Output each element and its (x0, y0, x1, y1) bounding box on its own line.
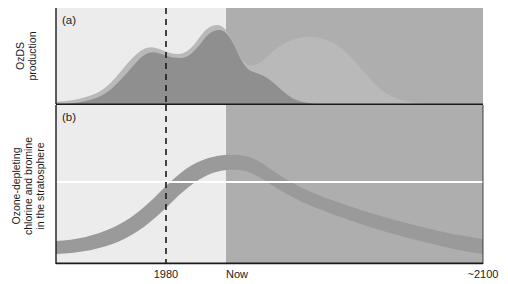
panel-a: (a) (56, 8, 483, 104)
panel-b: (b) (56, 105, 483, 264)
panel-a-ylabel-line-1: OzDS (14, 42, 26, 70)
panel-a-tag: (a) (62, 14, 76, 26)
panel-b-ylabel-line-1: Ozone-depleting (10, 147, 22, 224)
panel-b-tag: (b) (62, 111, 76, 123)
panel-b-ylabel-line-3: in the stratosphere (34, 142, 46, 229)
ozds-figure: (a) OzDS production (b) Ozon (0, 0, 508, 284)
panel-b-ylabel-line-2: chlorine and bromine (22, 137, 34, 235)
x-tick-label-1980: 1980 (154, 268, 178, 280)
x-tick-label-2100: ~2100 (468, 268, 499, 280)
x-tick-label-now: Now (226, 268, 248, 280)
panel-a-ylabel-line-2: production (26, 31, 38, 80)
panel-a-ylabel-group: OzDS production (14, 31, 38, 80)
figure-container: (a) OzDS production (b) Ozon (0, 0, 508, 284)
panel-b-ylabel-group: Ozone-depleting chlorine and bromine in … (10, 137, 46, 235)
x-axis-tick-labels: 1980 Now ~2100 (154, 268, 499, 280)
